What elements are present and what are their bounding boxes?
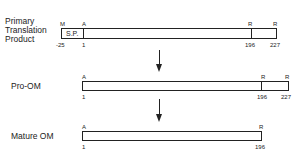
label-pro-om: Pro-OM <box>11 82 41 91</box>
arrow-head <box>156 64 162 72</box>
number-196: 196 <box>245 42 255 48</box>
marker-a: A <box>82 21 86 27</box>
label-mature-om: Mature OM <box>11 132 54 141</box>
marker-r-196: R <box>259 124 263 130</box>
divider-196 <box>261 82 262 90</box>
divider-signal-peptide <box>83 29 84 38</box>
signal-peptide-label: S.P. <box>66 30 78 38</box>
bar-pro-om <box>82 81 289 91</box>
number-196: 196 <box>255 144 265 150</box>
marker-a: A <box>82 124 86 130</box>
number-1: 1 <box>82 42 85 48</box>
number-neg25: -25 <box>56 42 65 48</box>
arrow-head <box>156 114 162 122</box>
bar-mature-om <box>82 131 262 141</box>
marker-r-196: R <box>248 21 252 27</box>
number-227: 227 <box>270 42 280 48</box>
number-1: 1 <box>82 144 85 150</box>
marker-r-227: R <box>273 21 277 27</box>
marker-r-196: R <box>261 74 265 80</box>
divider-196 <box>251 29 252 38</box>
bar-primary-product: S.P. <box>61 28 277 39</box>
number-1: 1 <box>82 94 85 100</box>
marker-a: A <box>82 74 86 80</box>
number-227: 227 <box>281 94 291 100</box>
marker-r-227: R <box>285 74 289 80</box>
number-196: 196 <box>257 94 267 100</box>
label-product: Product <box>5 35 34 44</box>
marker-m: M <box>60 21 65 27</box>
